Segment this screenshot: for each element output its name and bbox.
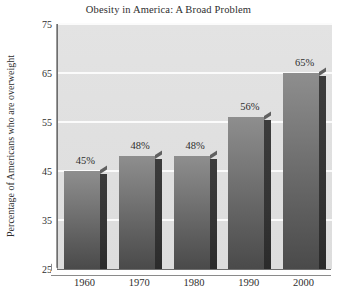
bar-side-face: [319, 76, 326, 269]
chart-title: Obesity in America: A Broad Problem: [0, 4, 337, 15]
bar-top-face: [155, 151, 162, 160]
bar-top-face: [210, 151, 217, 160]
bar[interactable]: [64, 171, 100, 269]
x-tick-label: 1980: [184, 277, 205, 288]
y-axis-title-label: Percentage of Americans who are overweig…: [5, 55, 16, 237]
x-tick-label: 1960: [74, 277, 95, 288]
bar-front-face: [64, 171, 100, 269]
x-axis-line: [57, 269, 331, 270]
bar-chart-figure: Obesity in America: A Broad Problem Perc…: [0, 0, 337, 298]
bar[interactable]: [283, 73, 319, 269]
bar-value-label: 56%: [240, 101, 259, 112]
bar-front-face: [119, 156, 155, 269]
bar-value-label: 48%: [185, 140, 204, 151]
y-tick-label: 55: [26, 117, 52, 128]
y-tick-label: 75: [26, 19, 52, 30]
bar-side-face: [155, 159, 162, 269]
y-tick-label: 45: [26, 166, 52, 177]
plot-area: 45%48%48%56%65%: [57, 24, 332, 269]
bar-front-face: [174, 156, 210, 269]
x-axis-tick-labels: 19601970198019902000: [57, 277, 331, 295]
bar-side-face: [264, 120, 271, 269]
bar-top-face: [100, 165, 107, 174]
bar[interactable]: [119, 156, 155, 269]
x-tick-label: 2000: [293, 277, 314, 288]
bar-top-face: [319, 67, 326, 76]
y-tick-label: 65: [26, 68, 52, 79]
gridline: [58, 23, 332, 24]
y-axis-tick-labels: 253545556575: [22, 24, 52, 269]
plot-floor-front-line: [51, 275, 331, 276]
y-tick-label: 25: [26, 264, 52, 275]
bar-side-face: [100, 174, 107, 269]
bar-front-face: [228, 117, 264, 269]
bar-value-label: 48%: [131, 140, 150, 151]
bar[interactable]: [228, 117, 264, 269]
bar-side-face: [210, 159, 217, 269]
y-axis-title: Percentage of Americans who are overweig…: [0, 20, 20, 272]
y-tick-label: 35: [26, 215, 52, 226]
bar-value-label: 65%: [295, 57, 314, 68]
bar-top-face: [264, 112, 271, 121]
y-axis-line: [56, 24, 57, 270]
bar[interactable]: [174, 156, 210, 269]
x-tick-label: 1970: [129, 277, 150, 288]
bar-front-face: [283, 73, 319, 269]
x-tick-label: 1990: [238, 277, 259, 288]
bar-value-label: 45%: [76, 155, 95, 166]
